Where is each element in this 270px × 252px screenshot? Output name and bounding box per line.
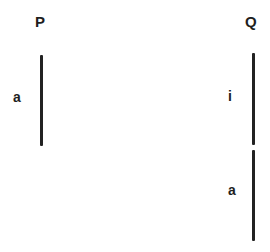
column-title-p: P — [35, 14, 45, 29]
segment-label-q-i: i — [228, 89, 232, 103]
segment-line-p-a — [40, 55, 43, 146]
segment-line-q-a — [252, 150, 255, 241]
column-title-q: Q — [245, 14, 257, 29]
segment-line-q-i — [252, 53, 255, 145]
segment-label-q-a: a — [228, 183, 236, 197]
segment-label-p-a: a — [13, 90, 21, 104]
